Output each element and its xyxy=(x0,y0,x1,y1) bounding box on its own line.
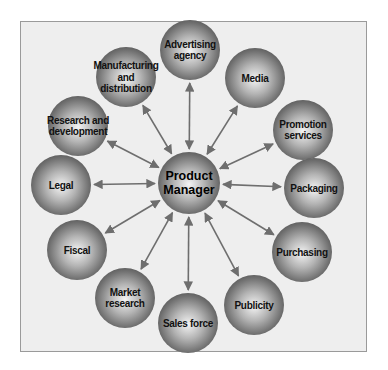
node-label-line: and xyxy=(118,72,135,83)
bidirectional-arrow-media xyxy=(207,106,237,154)
bidirectional-arrow-fiscal xyxy=(105,200,160,233)
node-label-line: Manufacturing xyxy=(94,60,159,71)
bidirectional-arrow-manufacturing-and-distribution xyxy=(143,105,172,153)
bidirectional-arrow-legal xyxy=(94,184,155,185)
node-label-line: Research and xyxy=(47,115,109,126)
node-manufacturing-and-distribution: Manufacturinganddistribution xyxy=(94,47,159,107)
node-label-line: Market xyxy=(110,287,141,298)
node-sales-force: Sales force xyxy=(158,293,218,353)
node-label-line: Sales force xyxy=(163,318,214,329)
node-media: Media xyxy=(225,48,285,108)
node-label-line: Fiscal xyxy=(64,245,91,256)
bidirectional-arrow-research-and-development xyxy=(107,141,158,167)
node-label-line: Purchasing xyxy=(276,247,328,258)
node-fiscal: Fiscal xyxy=(47,220,107,280)
node-label-line: Manager xyxy=(163,183,215,197)
node-label-line: agency xyxy=(174,50,207,61)
node-packaging: Packaging xyxy=(284,158,344,218)
node-label-line: Legal xyxy=(49,180,74,191)
node-label-line: distribution xyxy=(100,83,152,94)
node-advertising-agency: Advertisingagency xyxy=(160,20,220,80)
node-label-line: Publicity xyxy=(235,300,275,311)
node-purchasing: Purchasing xyxy=(272,222,332,282)
center-node-group: ProductManager xyxy=(158,152,220,214)
node-label-line: Packaging xyxy=(290,183,338,194)
bidirectional-arrow-packaging xyxy=(223,184,281,186)
node-label-line: Promotion xyxy=(279,119,326,130)
bidirectional-arrow-publicity xyxy=(205,213,238,276)
bidirectional-arrow-market-research xyxy=(141,213,172,269)
node-label-line: Advertising xyxy=(164,39,216,50)
node-market-research: Marketresearch xyxy=(95,268,155,328)
node-label-line: Media xyxy=(242,73,270,84)
node-label-line: research xyxy=(105,298,144,309)
node-research-and-development: Research anddevelopment xyxy=(47,96,109,156)
bidirectional-arrow-purchasing xyxy=(218,201,274,235)
node-promotion-services: Promotionservices xyxy=(273,100,333,160)
bidirectional-arrow-promotion-services xyxy=(220,144,273,169)
node-label-line: development xyxy=(49,126,108,137)
node-legal: Legal xyxy=(31,155,91,215)
product-manager-relationship-diagram: AdvertisingagencyMediaPromotionservicesP… xyxy=(0,0,388,370)
node-label-line: Product xyxy=(165,169,213,183)
node-label-line: services xyxy=(284,130,322,141)
node-publicity: Publicity xyxy=(224,275,284,335)
bidirectional-arrow-sales-force xyxy=(188,217,189,290)
